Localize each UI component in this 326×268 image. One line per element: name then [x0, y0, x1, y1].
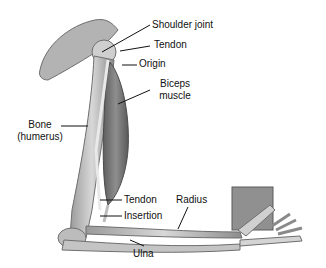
arm-anatomy-diagram: Shoulder joint Tendon Origin Biceps musc… — [0, 0, 326, 268]
label-biceps-muscle: Biceps muscle — [151, 78, 199, 102]
lower-tendon — [104, 205, 108, 222]
finger-bones — [240, 236, 302, 246]
label-origin: Origin — [139, 58, 166, 70]
label-radius: Radius — [176, 194, 207, 206]
label-insertion: Insertion — [124, 210, 162, 222]
radius-bone — [86, 226, 242, 238]
label-shoulder-joint: Shoulder joint — [152, 19, 213, 31]
finger-bones — [272, 214, 302, 234]
biceps-muscle — [103, 62, 128, 205]
label-bone-humerus: Bone (humerus) — [16, 119, 64, 143]
label-tendon-bottom: Tendon — [124, 194, 157, 206]
label-ulna: Ulna — [133, 248, 154, 260]
label-tendon-top: Tendon — [154, 39, 187, 51]
